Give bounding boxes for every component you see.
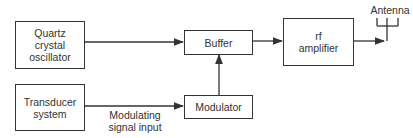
rf-amplifier-block: rf amplifier: [283, 18, 354, 66]
oscillator-label: Quartz crystal oscillator: [29, 27, 70, 63]
modulating-signal-label: Modulating signal input: [100, 109, 170, 133]
buffer-block: Buffer: [184, 30, 253, 55]
antenna-label: Antenna: [368, 4, 412, 16]
transducer-block: Transducer system: [15, 84, 85, 131]
modulator-block: Modulator: [184, 95, 253, 119]
rf-amplifier-label: rf amplifier: [299, 30, 339, 54]
transducer-label: Transducer system: [24, 96, 77, 120]
antenna-icon: [377, 18, 398, 41]
buffer-label: Buffer: [205, 37, 233, 49]
oscillator-block: Quartz crystal oscillator: [15, 21, 85, 69]
modulator-label: Modulator: [195, 101, 242, 113]
